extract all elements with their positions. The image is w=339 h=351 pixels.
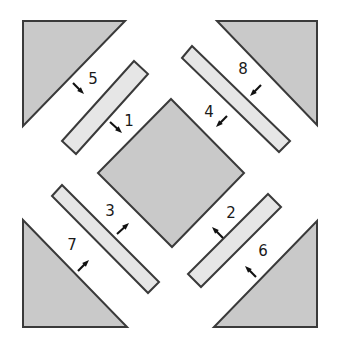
label-5: 5: [88, 70, 98, 88]
label-6: 6: [258, 242, 268, 260]
label-7: 7: [67, 236, 77, 254]
label-3: 3: [105, 202, 115, 220]
label-2: 2: [226, 204, 236, 222]
assembly-diagram: 12345678: [0, 0, 339, 351]
label-1: 1: [124, 112, 134, 130]
label-4: 4: [204, 103, 214, 121]
diagram-canvas: 12345678: [0, 0, 339, 351]
label-8: 8: [238, 60, 248, 78]
